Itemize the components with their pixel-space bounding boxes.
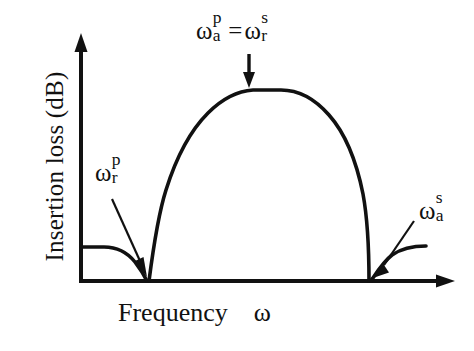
omega-symbol-2: ω [244,17,260,44]
omega-r-p-script: pr [111,164,122,182]
omega-r-s-script: sr [261,22,272,40]
omega-a-s-script: sa [435,202,446,220]
superscript-s: s [436,189,443,207]
x-axis-title-omega: ω [254,298,271,327]
plot-canvas [0,0,474,351]
omega-symbol: ω [95,159,111,186]
left-annotation-arrow [112,199,147,277]
subscript-a: a [213,27,221,45]
equals-sign: = [228,17,242,44]
omega-a-p-script: pa [212,22,223,40]
top-annotation-arrow [243,54,255,88]
response-curve-group [81,90,426,281]
subscript-r: r [261,27,267,45]
annotation-label-left: ωpr [95,160,122,185]
y-axis-title: Insertion loss (dB) [42,37,67,297]
superscript-s: s [261,9,268,27]
axes-group [75,33,456,288]
curve-main-lobe [149,90,369,281]
x-axis-title-text: Frequency [118,298,228,327]
omega-symbol: ω [196,17,212,44]
omega-symbol: ω [419,197,435,224]
figure-root: Insertion loss (dB) Frequencyω ωpa=ωsr ω… [0,0,474,351]
subscript-a: a [436,207,444,225]
superscript-p: p [112,151,121,169]
x-axis-title: Frequencyω [118,300,271,326]
annotation-label-top: ωpa=ωsr [196,18,272,43]
x-axis-arrow-icon [436,275,455,288]
superscript-p: p [213,9,222,27]
subscript-r: r [112,169,118,187]
y-axis-arrow-icon [75,33,88,52]
annotation-label-right: ωsa [419,198,446,223]
